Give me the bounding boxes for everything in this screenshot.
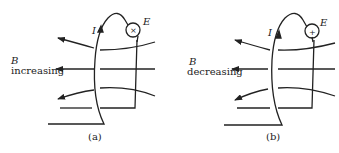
figure: I × E B increasing (a) I + E B decreasin…	[0, 0, 339, 153]
field-line-lower	[235, 89, 268, 100]
caption-a: (a)	[88, 131, 102, 142]
field-line-lower	[58, 90, 94, 99]
field-state-a: increasing	[11, 65, 65, 76]
caption-b: (b)	[266, 131, 280, 142]
field-line-top	[235, 40, 270, 50]
field-line-top	[58, 38, 94, 48]
emf-marker-b: +	[309, 28, 316, 37]
current-label-b: I	[267, 27, 273, 38]
emf-label-b: E	[319, 17, 328, 28]
emf-label-a: E	[142, 16, 151, 27]
field-state-b: decreasing	[187, 66, 243, 77]
current-label-a: I	[91, 25, 97, 36]
emf-marker-a: ×	[130, 26, 137, 35]
